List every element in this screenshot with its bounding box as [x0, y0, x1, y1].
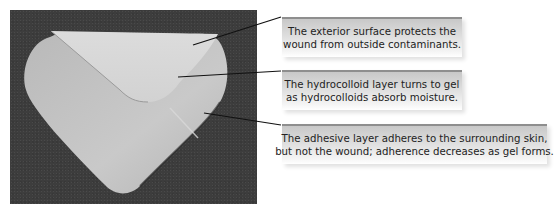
callout-hydrocolloid-layer: The hydrocolloid layer turns to gel as h…: [282, 70, 462, 110]
callout-text-line: as hydrocolloids absorb moisture.: [286, 91, 458, 105]
callout-text-line: The adhesive layer adheres to the surrou…: [282, 132, 548, 146]
callout-text-line: The exterior surface protects the: [288, 25, 456, 39]
hydrocolloid-dressing-illustration: [10, 10, 257, 204]
callout-text-line: but not the wound; adherence decreases a…: [275, 145, 554, 159]
dressing-photo: [10, 10, 257, 204]
callout-text-line: wound from outside contaminants.: [283, 38, 461, 52]
callout-text-line: The hydrocolloid layer turns to gel: [285, 78, 460, 92]
callout-exterior-surface: The exterior surface protects the wound …: [282, 17, 462, 57]
callout-adhesive-layer: The adhesive layer adheres to the surrou…: [282, 124, 547, 164]
